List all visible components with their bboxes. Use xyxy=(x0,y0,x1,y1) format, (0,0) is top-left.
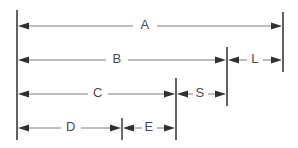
dimension-diagram: A B L C S xyxy=(0,0,298,148)
arrow-head-b-end xyxy=(215,57,226,64)
arrow-head-l-start xyxy=(228,57,239,64)
arrow-head-b-start xyxy=(18,57,29,64)
dimension-label-b: B xyxy=(112,51,121,66)
dimension-row-c-s: C S xyxy=(18,85,226,100)
dimension-label-s: S xyxy=(195,85,204,100)
dimension-label-e: E xyxy=(144,119,153,134)
arrow-head-l-end xyxy=(271,57,282,64)
arrow-head-d-start xyxy=(18,125,29,132)
dimension-row-b-l: B L xyxy=(18,51,282,66)
dimension-row-a: A xyxy=(18,17,282,32)
arrow-head-e-start xyxy=(123,125,134,132)
arrow-head-s-start xyxy=(177,91,188,98)
arrow-head-d-end xyxy=(110,125,121,132)
dimension-label-d: D xyxy=(66,119,76,134)
arrow-head-e-end xyxy=(164,125,175,132)
arrow-head-a-start xyxy=(18,23,29,30)
dimension-label-c: C xyxy=(93,85,103,100)
dimension-label-l: L xyxy=(251,51,259,66)
arrow-head-c-start xyxy=(18,91,29,98)
arrow-head-c-end xyxy=(164,91,175,98)
dimension-label-a: A xyxy=(140,17,149,32)
arrow-head-a-end xyxy=(271,23,282,30)
dimension-row-d-e: D E xyxy=(18,119,175,134)
dimension-drawing-canvas: A B L C S xyxy=(0,0,298,148)
arrow-head-s-end xyxy=(215,91,226,98)
